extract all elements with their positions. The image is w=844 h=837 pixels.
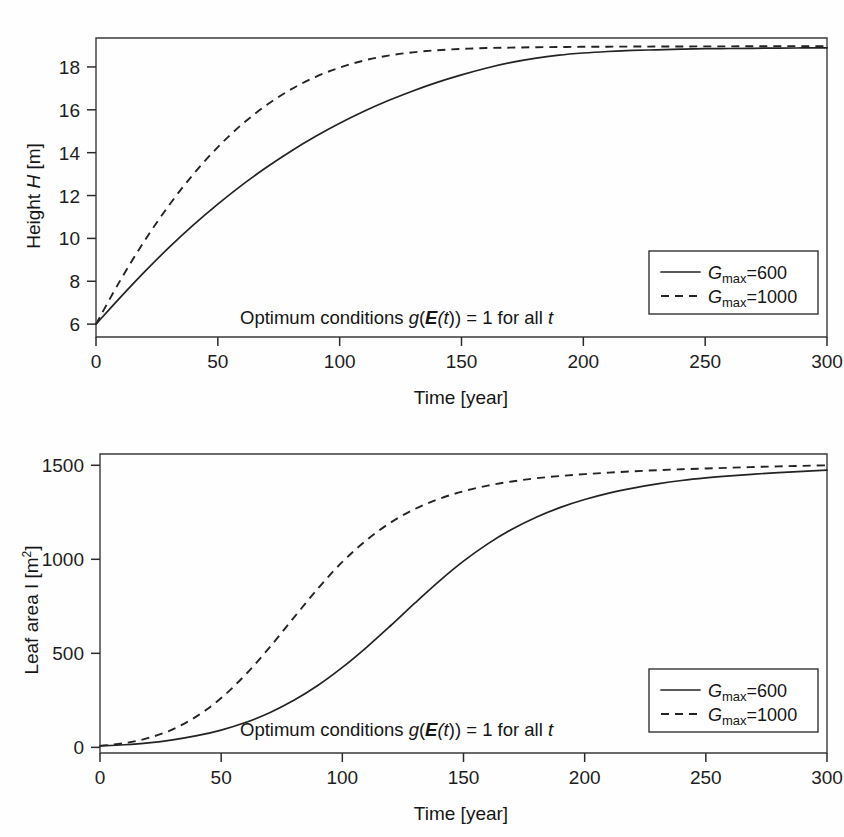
x-tick-label: 100 [326,767,358,788]
annotation-paren-close: )) [449,719,466,740]
legend-eq-1: = [747,705,758,725]
annotation-E: E [425,307,438,328]
legend-subscript-1: max [722,295,747,310]
legend-eq-0: = [747,681,758,701]
annotation-eq: = 1 for all [466,307,548,328]
x-tick-label: 250 [690,767,722,788]
legend-value-1: 1000 [757,287,797,307]
y-axis-title: Leaf area I [m2] [20,545,42,674]
annotation-paren-close: )) [449,307,466,328]
y-axis-title: Height H [m] [23,143,44,249]
y-axis-title-pre: Height [23,189,44,249]
x-tick-label: 50 [207,351,228,372]
x-tick-label: 300 [811,767,843,788]
x-tick-label: 150 [448,767,480,788]
y-tick-label: 12 [59,186,80,207]
annotation-pre: Optimum conditions [240,719,409,740]
x-tick-label: 50 [211,767,232,788]
legend-symbol-1: G [708,705,722,725]
annotation-E: E [425,719,438,740]
y-tick-label: 500 [52,643,84,664]
x-tick-label: 300 [811,351,843,372]
y-tick-label: 0 [73,737,84,758]
legend-eq-0: = [747,263,758,283]
legend-subscript-0: max [722,271,747,286]
x-tick-label: 0 [95,767,106,788]
x-axis-title: Time [year] [414,387,508,408]
x-tick-label: 250 [689,351,721,372]
annotation-optimum-conditions: Optimum conditions g(E(t)) = 1 for all t [240,307,554,328]
y-axis-title-pre: Leaf area I [m [21,557,42,674]
height-y-ticks: 681012141618 [59,57,96,335]
legend-eq-1: = [747,287,758,307]
legend-entry-gmax-600: Gmax=600 [708,263,787,286]
y-axis-title-post: ] [21,545,42,550]
x-tick-label: 150 [446,351,478,372]
x-axis-title: Time [year] [414,803,508,824]
leafarea-chart-svg: 050100150200250300 050010001500 Time [ye… [0,420,844,837]
x-tick-label: 200 [569,767,601,788]
annotation-t2: t [548,307,554,328]
legend-subscript-1: max [722,713,747,728]
y-axis-title-symbol: H [23,175,44,189]
annotation-pre: Optimum conditions [240,307,409,328]
figure-page: 050100150200250300 681012141618 Time [ye… [0,0,844,837]
legend-entry-gmax-1000: Gmax=1000 [708,287,797,310]
y-tick-label: 10 [59,228,80,249]
legend-value-0: 600 [757,263,787,283]
y-tick-label: 6 [69,314,80,335]
y-tick-label: 1500 [42,455,84,476]
y-tick-label: 8 [69,271,80,292]
height-chart-svg: 050100150200250300 681012141618 Time [ye… [0,0,844,420]
leafarea-x-ticks: 050100150200250300 [95,753,843,788]
legend-subscript-0: max [722,689,747,704]
annotation-t2: t [548,719,554,740]
x-tick-label: 100 [324,351,356,372]
y-tick-label: 16 [59,100,80,121]
leafarea-y-ticks: 050010001500 [42,455,100,758]
chart-leafarea-vs-time: 050100150200250300 050010001500 Time [ye… [0,420,844,837]
y-axis-title-post: [m] [23,143,44,175]
legend[interactable]: Gmax=600 Gmax=1000 [649,669,818,732]
y-tick-label: 18 [59,57,80,78]
legend[interactable]: Gmax=600 Gmax=1000 [649,251,818,314]
legend-value-0: 600 [757,681,787,701]
legend-symbol-1: G [708,287,722,307]
height-x-ticks: 050100150200250300 [91,337,843,372]
legend-entry-gmax-1000: Gmax=1000 [708,705,797,728]
annotation-eq: = 1 for all [466,719,548,740]
legend-value-1: 1000 [757,705,797,725]
x-tick-label: 0 [91,351,102,372]
annotation-optimum-conditions: Optimum conditions g(E(t)) = 1 for all t [240,719,554,740]
x-tick-label: 200 [567,351,599,372]
legend-symbol-0: G [708,681,722,701]
chart-height-vs-time: 050100150200250300 681012141618 Time [ye… [0,0,844,420]
legend-symbol-0: G [708,263,722,283]
legend-entry-gmax-600: Gmax=600 [708,681,787,704]
y-tick-label: 1000 [42,549,84,570]
y-tick-label: 14 [59,143,81,164]
